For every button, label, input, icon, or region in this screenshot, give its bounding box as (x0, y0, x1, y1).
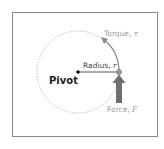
force-label: Force, F (107, 106, 137, 114)
torque-diagram (0, 0, 164, 149)
radius-symbol: r (113, 61, 117, 70)
pivot-label: Pivot (49, 76, 78, 86)
force-point (116, 69, 121, 74)
torque-symbol: τ (134, 29, 138, 38)
force-arrow (113, 75, 126, 104)
force-symbol: F (132, 105, 137, 114)
radius-label: Radius, r (83, 62, 117, 70)
torque-label: Torque, τ (104, 30, 138, 38)
pivot-dot (76, 70, 80, 74)
